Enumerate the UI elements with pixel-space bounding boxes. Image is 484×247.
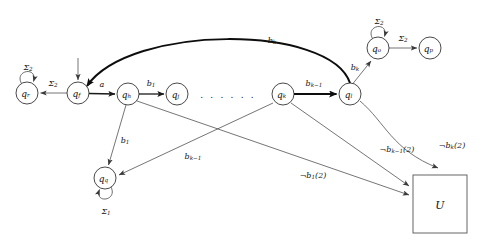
label-qk-qq: bk−1 xyxy=(185,152,202,162)
edge-qk-qq xyxy=(119,103,273,175)
label-loop-qq: Σ1 xyxy=(100,207,110,217)
label-ql-U: ¬bk(2) xyxy=(439,141,466,151)
ellipsis-label: . . . . . . xyxy=(200,90,256,100)
label-qh-qj: b1 xyxy=(147,79,156,89)
edge-ql-U xyxy=(360,101,438,168)
box-U: U xyxy=(413,175,467,233)
state-qo: qo xyxy=(367,37,389,59)
state-qh: qh xyxy=(117,83,139,105)
state-qq: qq xyxy=(94,167,116,189)
state-qh-sub: h xyxy=(128,94,132,100)
state-qf: qf xyxy=(67,82,89,104)
edge-qh-qq xyxy=(109,105,127,165)
label-qk-ql: bk−1 xyxy=(306,79,323,89)
state-ql-sub: l xyxy=(350,94,352,100)
edge-qf-qh xyxy=(89,94,115,95)
edge-qh-U xyxy=(137,101,409,195)
label-qf-qr: Σ2 xyxy=(47,79,58,89)
state-qj: qj xyxy=(166,83,188,105)
label-loop-qr: Σ2 xyxy=(22,63,33,73)
label-qf-qh: a xyxy=(100,80,105,89)
label-qh-U: ¬b1(2) xyxy=(300,171,327,181)
state-qp-sub: p xyxy=(430,48,434,55)
box-U-label: U xyxy=(435,199,445,212)
label-qo-qp: Σ2 xyxy=(397,34,408,44)
fsm-diagram: U qr qf qh qj xyxy=(0,0,484,247)
state-qk: qk xyxy=(272,83,294,105)
state-qr-sub: r xyxy=(27,93,30,99)
label-ql-qo: bk xyxy=(351,63,360,73)
label-ql-qf-arc: bk xyxy=(268,36,277,46)
fsm-canvas: U qr qf qh qj xyxy=(0,0,484,247)
label-qh-qq: b1 xyxy=(121,136,130,146)
label-qk-U: ¬bk−1(2) xyxy=(380,145,415,155)
state-qp: qp xyxy=(419,37,441,59)
state-ql: ql xyxy=(339,83,361,105)
state-qq-sub: q xyxy=(105,178,109,185)
label-loop-qo: Σ2 xyxy=(373,17,384,27)
state-qr: qr xyxy=(16,82,38,104)
